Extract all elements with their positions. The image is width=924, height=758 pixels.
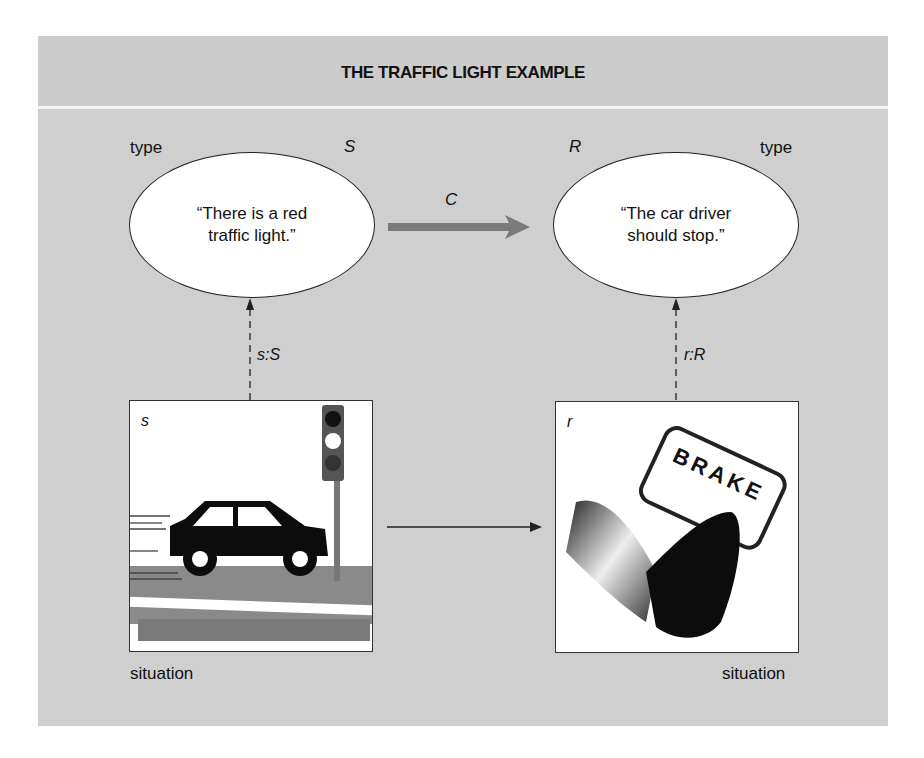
- car-icon: [170, 501, 328, 576]
- car-traffic-light-illustration: [130, 401, 372, 651]
- dashed-arrow-r-to-R: [672, 298, 680, 400]
- situation-caption-right: situation: [722, 664, 785, 684]
- situation-box-r: r BRAKE: [555, 401, 799, 653]
- situation-caption-left: situation: [130, 664, 193, 684]
- dashed-arrow-s-to-S: [246, 298, 254, 400]
- situation-arrow: [387, 522, 542, 532]
- situation-box-s: s: [129, 400, 373, 652]
- brake-pedal-illustration: BRAKE: [556, 402, 798, 652]
- constraint-arrow: [388, 215, 530, 239]
